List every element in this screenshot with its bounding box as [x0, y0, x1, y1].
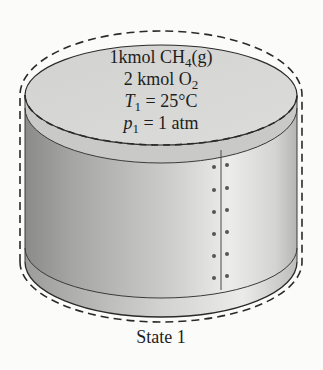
state-caption: State 1: [136, 327, 186, 347]
contents-line-1: 1kmol CH4(g): [109, 47, 212, 70]
tank-contents: 1kmol CH4(g) 2 kmol O2 T1 = 25°C p1 = 1 …: [109, 47, 212, 136]
contents-line-2: 2 kmol O2: [124, 69, 199, 92]
tank-diagram: 1kmol CH4(g) 2 kmol O2 T1 = 25°C p1 = 1 …: [0, 0, 323, 370]
